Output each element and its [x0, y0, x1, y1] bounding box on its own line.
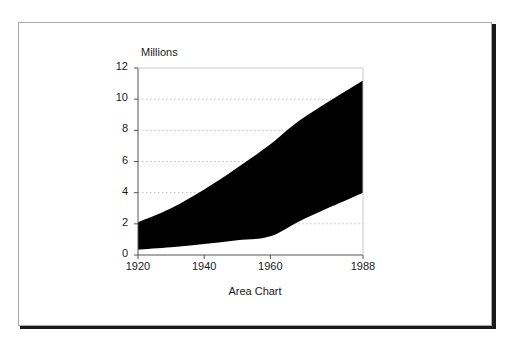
y-tick-label: 6 [106, 154, 128, 166]
y-tick-label: 2 [106, 216, 128, 228]
x-tick-marks [138, 255, 363, 259]
y-tick-label: 8 [106, 122, 128, 134]
y-tick-marks [134, 68, 138, 255]
y-tick-label: 10 [106, 91, 128, 103]
y-tick-label: 4 [106, 185, 128, 197]
x-tick-label: 1960 [248, 260, 292, 272]
x-tick-label: 1940 [182, 260, 226, 272]
x-tick-label: 1920 [116, 260, 160, 272]
area-chart: Millions 024681012 1920194019601988 Area… [0, 0, 515, 349]
chart-caption: Area Chart [18, 285, 492, 297]
y-tick-label: 0 [106, 247, 128, 259]
y-tick-label: 12 [106, 60, 128, 72]
x-tick-label: 1988 [341, 260, 385, 272]
